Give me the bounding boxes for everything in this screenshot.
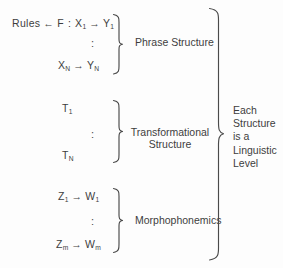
right-arrow-icon: → [68, 190, 85, 202]
transformational-structure-brace [114, 101, 123, 163]
rule-rhs-subscript: N [94, 65, 99, 72]
rule-lhs-subscript: 1 [82, 23, 86, 30]
left-arrow-icon: ← [40, 17, 57, 29]
morphophonemics-first-rule: Z1→W1 [58, 191, 99, 202]
transformational-ellipsis: : [91, 128, 94, 140]
rule-lhs-subscript: 1 [65, 196, 69, 203]
morphophonemics-brace [114, 189, 123, 253]
transformation-subscript: 1 [69, 108, 73, 115]
rule-lhs-subscript: N [65, 65, 70, 72]
outer-label-line-2: Structure [233, 117, 277, 130]
transformational-first-symbol: T1 [62, 103, 72, 114]
outer-label-line-5: Level [233, 157, 277, 170]
morphophonemics-last-rule: Zm→Wm [56, 239, 101, 250]
rules-label: Rules [12, 17, 40, 29]
rule-rhs-symbol: W [85, 190, 95, 202]
transformational-structure-label-line1: Transformational [128, 126, 212, 138]
rule-rhs-subscript: m [95, 244, 101, 251]
function-symbol: F [57, 17, 64, 29]
transformational-structure-label-line2: Structure [128, 138, 212, 150]
outer-label-line-4: Linguistic [233, 144, 277, 157]
phrase-structure-last-rule: XN→YN [58, 60, 99, 71]
morphophonemics-ellipsis: : [91, 215, 94, 227]
transformational-last-symbol: TN [62, 150, 74, 161]
phrase-structure-label: Phrase Structure [135, 36, 214, 48]
outer-label-line-3: is a [233, 130, 277, 143]
linguistic-levels-diagram: Rules←F:X1→Y1 : XN→YN Phrase Structure T… [0, 0, 283, 268]
phrase-structure-ellipsis: : [91, 37, 94, 49]
phrase-structure-brace [114, 15, 123, 75]
transformation-symbol: T [62, 149, 69, 161]
right-arrow-icon: → [68, 238, 85, 250]
rule-lhs-symbol: Z [58, 190, 65, 202]
outer-label-line-1: Each [233, 104, 277, 117]
transformational-structure-label: Transformational Structure [128, 126, 212, 150]
transformation-symbol: T [62, 102, 69, 114]
rule-lhs-symbol: Z [56, 238, 63, 250]
phrase-structure-first-rule: Rules←F:X1→Y1 [12, 18, 114, 29]
rule-rhs-subscript: 1 [110, 23, 114, 30]
transformation-subscript: N [69, 155, 74, 162]
right-arrow-icon: → [70, 59, 87, 71]
morphophonemics-label: Morphophonemics [135, 214, 221, 226]
rule-rhs-subscript: 1 [95, 196, 99, 203]
colon-separator: : [64, 17, 75, 29]
rule-lhs-subscript: m [63, 244, 69, 251]
right-arrow-icon: → [86, 17, 103, 29]
outer-label-block: Each Structure is a Linguistic Level [233, 104, 277, 170]
rule-rhs-symbol: W [85, 238, 95, 250]
